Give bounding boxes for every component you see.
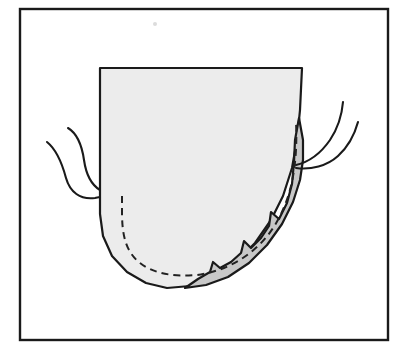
anatomical-diagram-svg <box>0 0 409 351</box>
figure-root <box>0 0 409 351</box>
page-speck-icon <box>153 22 157 26</box>
